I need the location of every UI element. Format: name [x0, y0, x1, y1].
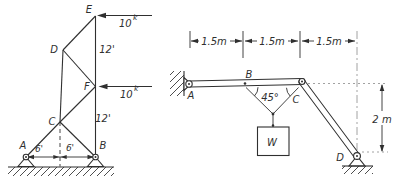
weight-label: W: [267, 137, 278, 148]
node-dot-b: [244, 82, 247, 85]
dim-label-span1: 1.5m: [201, 36, 227, 47]
pin-support-a-right: [184, 78, 192, 91]
force-arrowhead-mid: [99, 84, 108, 90]
pin-dot-a-right: [188, 83, 190, 85]
height-dimension: 2 m: [308, 84, 394, 153]
pin-dot-b: [95, 156, 97, 158]
node-label-b: B: [100, 140, 107, 151]
dim-arrow-2r: [291, 39, 298, 44]
truss-member-dc: [60, 50, 63, 122]
frame-label-b: B: [246, 69, 253, 80]
frame-label-a: A: [187, 90, 195, 101]
dim-label-span2: 1.5m: [259, 36, 285, 47]
dim-arrow-3l: [302, 39, 309, 44]
force-value-top: 10: [119, 18, 132, 29]
truss-member-cf: [60, 87, 96, 123]
frame-label-d: D: [336, 152, 344, 163]
dim-label-height: 2 m: [372, 114, 392, 125]
force-arrowhead-top: [97, 13, 106, 19]
height-arrow-up: [380, 84, 385, 91]
statics-figure: E D F C A B 10 k 10 k 12' 12' 6' 6': [0, 0, 406, 187]
dim-label-base-left: 6': [35, 144, 43, 154]
ground-hatch-left: [8, 167, 114, 176]
diagram-svg: E D F C A B 10 k 10 k 12' 12' 6' 6': [0, 0, 406, 187]
force-unit-top: k: [133, 13, 138, 22]
dim-arrow-center-right: [61, 155, 67, 159]
node-label-e: E: [86, 4, 93, 15]
dim-arrow-1r: [235, 39, 242, 44]
node-label-f: F: [84, 81, 90, 92]
truss-member-df: [63, 50, 96, 87]
angle-arc-c: [287, 88, 291, 96]
height-arrow-down: [380, 145, 385, 152]
dim-arrow-3r: [348, 39, 355, 44]
dim-arrow-1l: [191, 39, 198, 44]
angle-arc-b: [255, 87, 259, 96]
hanger-dot: [272, 124, 274, 126]
dim-label-base-right: 6': [66, 143, 74, 153]
force-unit-mid: k: [134, 84, 139, 93]
pin-dot-d: [356, 155, 358, 157]
frame-label-c: C: [293, 94, 300, 105]
force-value-mid: 10: [120, 89, 133, 100]
node-label-c: C: [49, 116, 56, 127]
wall-hatch: [170, 71, 184, 96]
dim-label-span3: 1.5m: [316, 36, 342, 47]
truss-member-ed: [63, 16, 96, 50]
pin-dot-c: [301, 81, 303, 83]
node-label-a: A: [19, 140, 27, 151]
dim-label-ef: 12': [99, 44, 114, 55]
left-truss-diagram: E D F C A B 10 k 10 k 12' 12' 6' 6': [8, 4, 152, 176]
ground-hatch-right: [342, 166, 373, 174]
dim-arrow-center-left: [53, 155, 59, 159]
top-dimension: 1.5m 1.5m 1.5m: [190, 31, 355, 58]
frame-bar-cd: [302, 82, 357, 156]
dim-label-fb: 12': [95, 113, 110, 124]
pin-support-d: [342, 153, 373, 174]
right-frame-diagram: 1.5m 1.5m 1.5m: [170, 31, 394, 174]
pin-dot-a: [25, 156, 27, 158]
node-label-d: D: [50, 44, 58, 55]
angle-label: 45°: [261, 92, 279, 103]
dim-arrow-2l: [245, 39, 252, 44]
